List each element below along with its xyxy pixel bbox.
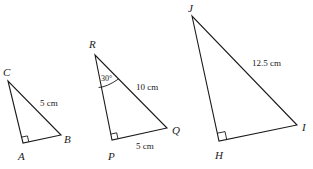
vertex-label-c: C <box>3 66 11 78</box>
triangle-hij: J H I 12.5 cm <box>188 2 307 161</box>
vertex-label-h: H <box>214 149 224 161</box>
vertex-label-b: B <box>64 133 71 145</box>
triangle-pqr-outline <box>95 55 167 140</box>
triangle-pqr: R P Q 30° 10 cm 5 cm <box>88 38 180 162</box>
side-label-rq: 10 cm <box>136 82 158 92</box>
vertex-label-a: A <box>17 150 25 162</box>
triangle-hij-outline <box>192 16 297 141</box>
vertex-label-p: P <box>107 150 115 162</box>
vertex-label-j: J <box>188 2 194 14</box>
vertex-label-i: I <box>301 121 307 133</box>
vertex-label-q: Q <box>172 124 180 136</box>
angle-label-r: 30° <box>101 74 112 83</box>
side-label-ji: 12.5 cm <box>252 58 281 68</box>
triangles-diagram: C A B 5 cm R P Q 30° 10 cm 5 cm J H I 12… <box>0 0 313 169</box>
vertex-label-r: R <box>88 38 96 50</box>
triangle-abc-outline <box>8 81 61 143</box>
side-label-cb: 5 cm <box>40 98 58 108</box>
side-label-pq: 5 cm <box>136 141 154 151</box>
triangle-abc: C A B 5 cm <box>3 66 71 162</box>
